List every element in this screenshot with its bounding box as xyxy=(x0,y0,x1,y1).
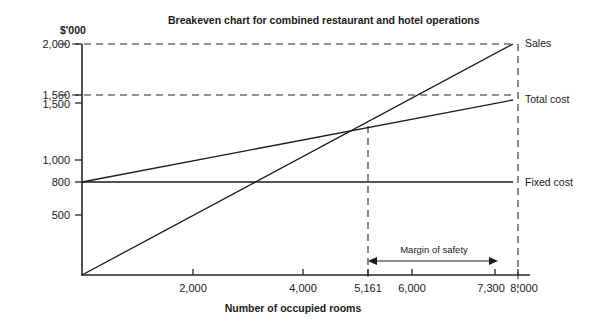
chart-title: Breakeven chart for combined restaurant … xyxy=(168,14,480,26)
series-label-total-cost: Total cost xyxy=(525,93,569,105)
y-axis-unit-label: $'000 xyxy=(60,24,86,36)
margin-of-safety-arrow-left-icon xyxy=(368,257,377,265)
series-line-total-cost xyxy=(82,100,513,182)
x-tick-label-5161: 5,161 xyxy=(354,282,382,294)
y-tick-label-1000: 1,000 xyxy=(42,154,70,166)
x-tick-label-4000: 4,000 xyxy=(289,282,317,294)
x-axis-label: Number of occupied rooms xyxy=(225,302,362,314)
margin-of-safety-label: Margin of safety xyxy=(400,244,468,255)
x-tick-label-8000: 8,000 xyxy=(510,282,538,294)
y-tick-label-1500: 1,500 xyxy=(42,98,70,110)
y-tick-label-500: 500 xyxy=(52,209,70,221)
x-tick-label-7300: 7,300 xyxy=(477,282,505,294)
chart-canvas: Breakeven chart for combined restaurant … xyxy=(0,0,595,332)
y-tick-label-2000: 2,000 xyxy=(42,38,70,50)
y-tick-label-800: 800 xyxy=(52,176,70,188)
margin-of-safety-arrow-right-icon xyxy=(489,257,498,265)
x-tick-label-2000: 2,000 xyxy=(179,282,207,294)
series-label-fixed-cost: Fixed cost xyxy=(525,176,573,188)
series-line-sales xyxy=(82,44,513,275)
breakeven-chart: Breakeven chart for combined restaurant … xyxy=(0,0,595,332)
series-label-sales: Sales xyxy=(525,37,551,49)
x-tick-label-6000: 6,000 xyxy=(398,282,426,294)
